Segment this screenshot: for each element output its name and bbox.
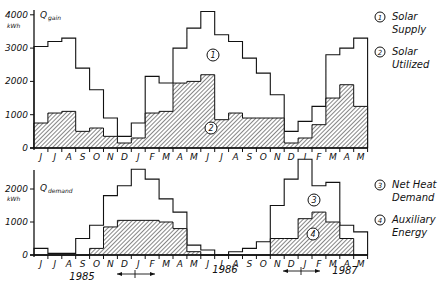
y-tick-label: 4000 <box>5 10 28 20</box>
x-tick-label: N <box>274 259 281 269</box>
x-tick-label: A <box>176 152 183 162</box>
x-tick-label: M <box>329 152 337 162</box>
legend-label: Solar <box>392 11 418 22</box>
bottom-unit: kWh <box>7 195 20 202</box>
solar-energy-chart: Q gain kWh 40003000200010000 JJASONDJFMA… <box>0 0 440 286</box>
y-tick-label: 3000 <box>5 43 28 53</box>
bottom-chart: Q demand kWh 200010000 JJASONDJFMAMJJASO… <box>5 159 437 282</box>
x-tick-label: S <box>80 259 86 269</box>
x-tick-label: J <box>204 259 209 269</box>
x-tick-label: J <box>52 259 57 269</box>
x-tick-label: F <box>316 259 322 269</box>
svg-text:3: 3 <box>311 196 316 205</box>
x-tick-label: A <box>176 259 183 269</box>
legend-label: Utilized <box>392 59 430 70</box>
top-title-q: Q <box>40 10 47 20</box>
x-tick-label: O <box>93 259 100 269</box>
bottom-title-sub: demand <box>48 187 73 194</box>
x-tick-label: S <box>247 152 253 162</box>
y-tick-label: 0 <box>22 143 28 153</box>
legend-label: Solar <box>392 46 418 57</box>
top-chart: Q gain kWh 40003000200010000 JJASONDJFMA… <box>5 10 430 162</box>
x-tick-label: A <box>65 152 72 162</box>
top-title-sub: gain <box>48 14 61 22</box>
x-tick-label: A <box>231 152 238 162</box>
y-tick-label: 0 <box>22 250 28 260</box>
x-tick-label: F <box>150 259 156 269</box>
x-tick-label: M <box>190 259 198 269</box>
x-tick-label: M <box>162 152 170 162</box>
x-tick-label: A <box>343 152 350 162</box>
x-tick-label: M <box>190 152 198 162</box>
year-label: 1985 <box>69 271 94 282</box>
x-tick-label: J <box>38 152 43 162</box>
bottom-bars <box>34 159 368 255</box>
top-bars <box>34 11 368 148</box>
x-tick-label: N <box>107 152 114 162</box>
y-tick-label: 1000 <box>5 110 28 120</box>
legend-marker: 4 <box>378 217 382 225</box>
bottom-x-axis-ticks: JJASONDJFMAMJJASONDJFMAM <box>38 255 368 269</box>
x-tick-label: J <box>135 259 140 269</box>
year-label: 1986 <box>212 264 237 275</box>
x-tick-label: J <box>204 152 209 162</box>
x-tick-label: S <box>80 152 86 162</box>
x-tick-label: D <box>288 152 295 162</box>
legend-label: Energy <box>392 227 428 238</box>
legend-marker: 3 <box>378 182 382 190</box>
legend-label: Net Heat <box>392 179 438 190</box>
bottom-title-q: Q <box>40 183 47 193</box>
x-tick-label: O <box>260 259 267 269</box>
x-tick-label: N <box>107 259 114 269</box>
svg-text:2: 2 <box>208 124 213 133</box>
x-tick-label: O <box>93 152 100 162</box>
x-tick-label: D <box>121 152 128 162</box>
x-tick-label: J <box>52 152 57 162</box>
year-label: 1987 <box>332 265 358 276</box>
x-tick-label: A <box>65 259 72 269</box>
legend-label: Demand <box>392 192 435 203</box>
legend-marker: 2 <box>378 49 383 57</box>
legend-label: Auxiliary <box>391 214 437 225</box>
bottom-legend: 3Net HeatDemand4AuxiliaryEnergy <box>375 179 438 238</box>
y-tick-label: 1000 <box>5 217 28 227</box>
x-tick-label: S <box>247 259 253 269</box>
x-tick-label: F <box>316 152 322 162</box>
top-unit: kWh <box>7 22 20 29</box>
x-tick-label: O <box>260 152 267 162</box>
x-tick-label: M <box>162 259 170 269</box>
y-tick-label: 2000 <box>5 76 28 86</box>
x-tick-label: D <box>288 259 295 269</box>
x-tick-label: J <box>218 152 223 162</box>
svg-text:4: 4 <box>310 230 315 239</box>
x-tick-label: J <box>302 259 307 269</box>
y-tick-label: 2000 <box>5 184 28 194</box>
x-tick-label: M <box>357 259 365 269</box>
top-y-axis-ticks: 40003000200010000 <box>5 10 34 153</box>
x-tick-label: F <box>150 152 156 162</box>
legend-label: Supply <box>392 24 427 35</box>
top-legend: 1SolarSupply2SolarUtilized <box>375 11 430 70</box>
x-tick-label: N <box>274 152 281 162</box>
x-tick-label: J <box>38 259 43 269</box>
heating-season-arrow-1985 <box>117 270 155 278</box>
legend-marker: 1 <box>378 14 382 22</box>
x-tick-label: M <box>357 152 365 162</box>
x-tick-label: D <box>121 259 128 269</box>
svg-text:1: 1 <box>210 51 215 60</box>
x-tick-label: J <box>135 152 140 162</box>
top-x-axis-ticks: JJASONDJFMAMJJASONDJFMAM <box>38 148 368 162</box>
